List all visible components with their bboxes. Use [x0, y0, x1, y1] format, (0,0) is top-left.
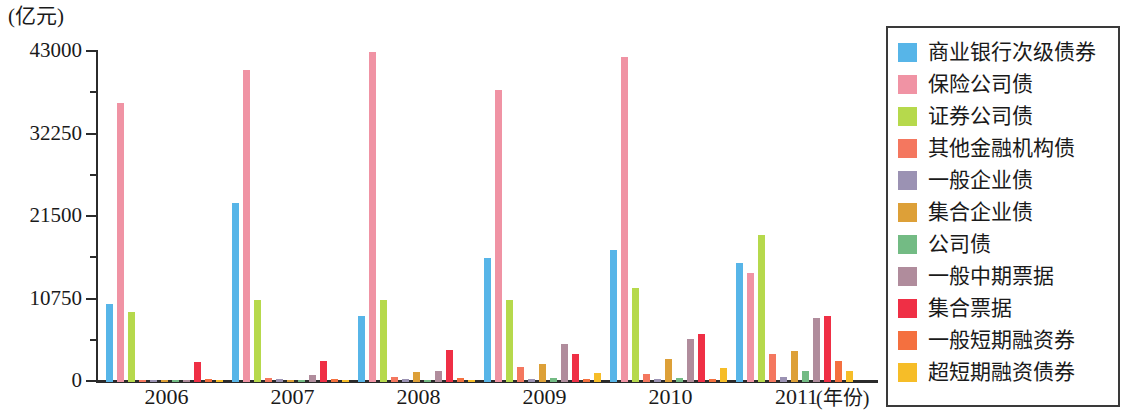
bar: [457, 378, 464, 382]
bar: [610, 250, 617, 382]
bar: [358, 316, 365, 382]
legend-label: 一般中期票据: [928, 266, 1054, 287]
bar: [216, 380, 223, 382]
bar: [117, 103, 124, 382]
legend-label: 一般企业债: [928, 170, 1033, 191]
bar: [528, 379, 535, 382]
bar: [380, 300, 387, 382]
bar: [846, 371, 853, 382]
y-tick-label: 0: [0, 370, 82, 391]
bar: [758, 235, 765, 382]
bar: [424, 380, 431, 382]
y-tick-label: 43000: [0, 40, 82, 61]
legend-swatch-icon: [898, 171, 917, 190]
legend-item-9: 一般短期融资券: [898, 324, 1118, 356]
y-axis-unit-caption: (亿元): [8, 6, 64, 27]
bar: [161, 380, 168, 382]
bar: [484, 258, 491, 382]
bar-group-2010: [610, 52, 731, 382]
bar: [791, 351, 798, 382]
bar: [391, 377, 398, 382]
legend-swatch-icon: [898, 331, 917, 350]
bar: [676, 378, 683, 382]
legend-item-0: 商业银行次级债券: [898, 36, 1118, 68]
bar: [654, 379, 661, 382]
bar: [539, 364, 546, 382]
bar: [446, 350, 453, 382]
bar: [621, 57, 628, 382]
legend-label: 公司债: [928, 234, 991, 255]
bar: [369, 52, 376, 382]
legend-swatch-icon: [898, 267, 917, 286]
bar: [194, 362, 201, 382]
bar: [495, 90, 502, 382]
bar: [265, 378, 272, 382]
legend-label: 集合企业债: [928, 202, 1033, 223]
x-tick-label-2008: 2008: [379, 386, 459, 408]
bar-group-2011: [736, 52, 857, 382]
bar: [802, 371, 809, 383]
bar: [331, 379, 338, 382]
legend-label: 证券公司债: [928, 106, 1033, 127]
legend-item-4: 一般企业债: [898, 164, 1118, 196]
bar: [402, 379, 409, 382]
bar: [128, 312, 135, 382]
bar: [561, 344, 568, 382]
bar: [243, 70, 250, 382]
bar: [835, 361, 842, 382]
legend-label: 一般短期融资券: [928, 330, 1075, 351]
bar: [435, 371, 442, 383]
bar: [583, 379, 590, 382]
bar: [517, 367, 524, 382]
bar: [698, 334, 705, 382]
legend-label: 集合票据: [928, 298, 1012, 319]
legend-item-1: 保险公司债: [898, 68, 1118, 100]
x-tick-label-2007: 2007: [253, 386, 333, 408]
bar: [824, 316, 831, 382]
bar: [413, 372, 420, 382]
bar: [309, 375, 316, 382]
legend-label: 商业银行次级债券: [928, 42, 1096, 63]
x-tick-label-2010: 2010: [631, 386, 711, 408]
bar: [468, 380, 475, 382]
legend-swatch-icon: [898, 75, 917, 94]
bar: [320, 361, 327, 382]
bar: [506, 300, 513, 382]
bar: [183, 380, 190, 382]
legend-swatch-icon: [898, 299, 917, 318]
x-tick-label-2006: 2006: [127, 386, 207, 408]
legend-item-10: 超短期融资债券: [898, 356, 1118, 388]
bar: [205, 379, 212, 382]
bar: [769, 354, 776, 382]
legend-label: 其他金融机构债: [928, 138, 1075, 159]
plot-area: [96, 52, 856, 382]
bar: [572, 354, 579, 382]
bar: [106, 304, 113, 382]
legend-label: 保险公司债: [928, 74, 1033, 95]
bar: [736, 263, 743, 382]
legend-swatch-icon: [898, 363, 917, 382]
legend-item-8: 集合票据: [898, 292, 1118, 324]
legend-item-5: 集合企业债: [898, 196, 1118, 228]
legend-item-6: 公司债: [898, 228, 1118, 260]
x-axis-caption: (年份): [816, 388, 869, 408]
bar: [687, 339, 694, 382]
bar: [709, 379, 716, 382]
bar: [813, 318, 820, 382]
legend-swatch-icon: [898, 203, 917, 222]
bar: [172, 380, 179, 382]
legend-swatch-icon: [898, 235, 917, 254]
bar: [665, 359, 672, 382]
y-tick-label: 32250: [0, 123, 82, 144]
bar: [594, 373, 601, 382]
bar: [720, 368, 727, 382]
bar: [550, 378, 557, 382]
y-tick-label: 21500: [0, 205, 82, 226]
bar-group-2008: [358, 52, 479, 382]
bar: [780, 377, 787, 382]
bar: [632, 288, 639, 382]
legend-item-3: 其他金融机构债: [898, 132, 1118, 164]
legend-swatch-icon: [898, 43, 917, 62]
bar: [287, 380, 294, 382]
chart-legend: 商业银行次级债券保险公司债证券公司债其他金融机构债一般企业债集合企业债公司债一般…: [886, 26, 1120, 407]
